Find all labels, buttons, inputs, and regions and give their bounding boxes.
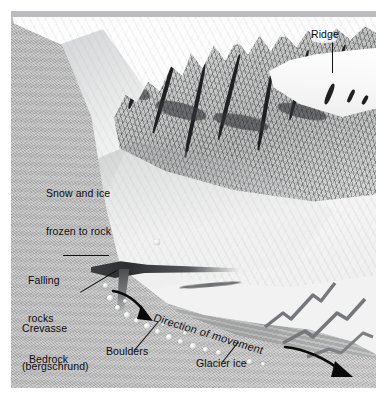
boulder-dot — [203, 347, 208, 352]
label-crevasse: Crevasse (bergschrund) — [22, 297, 89, 397]
label-glacier-ice: Glacier ice — [196, 357, 247, 370]
boulder-dot — [155, 329, 160, 334]
leader-line-ridge — [332, 43, 333, 73]
boulder-dot — [166, 334, 172, 340]
label-crevasse-line1: Crevasse — [22, 322, 89, 335]
boulder-dot — [103, 283, 108, 288]
label-boulders: Boulders — [106, 345, 148, 358]
boulder-dot — [178, 339, 183, 344]
boulder-dot — [154, 239, 160, 245]
label-bedrock: Bedrock — [29, 353, 68, 366]
label-snow-and-ice: Snow and ice frozen to rock — [46, 162, 111, 262]
label-snow-and-ice-line2: frozen to rock — [46, 225, 111, 238]
direction-arrow-lower — [283, 343, 369, 387]
label-snow-and-ice-line1: Snow and ice — [46, 187, 111, 200]
boulder-dot — [247, 359, 252, 364]
label-ridge: Ridge — [311, 28, 339, 41]
label-falling-rocks-line1: Falling — [28, 274, 60, 287]
boulder-dot — [216, 350, 221, 355]
glacier-diagram-figure: Direction of movement Ridge Snow and ice… — [0, 0, 380, 401]
boulder-dot — [190, 343, 196, 349]
